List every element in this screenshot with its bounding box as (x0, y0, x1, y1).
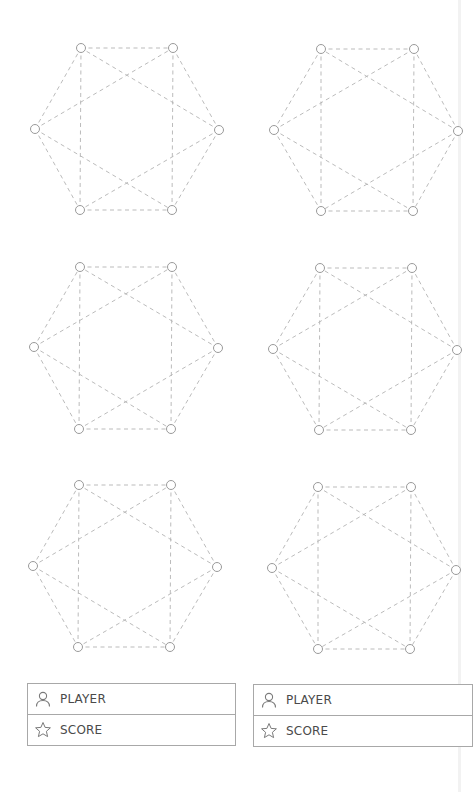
graph-edge (79, 485, 217, 567)
graph-edge (172, 267, 218, 348)
graph-edge (318, 487, 456, 570)
star-icon (34, 721, 52, 739)
graph-node[interactable] (314, 645, 323, 654)
graph-node[interactable] (166, 643, 175, 652)
graph-edge (274, 49, 321, 130)
graph-edge (80, 267, 218, 348)
graph-node[interactable] (268, 564, 277, 573)
graph-edge (273, 268, 320, 349)
player-label: PLAYER (60, 692, 106, 706)
graph-edge (272, 487, 411, 568)
graph-node[interactable] (169, 44, 178, 53)
graph-node[interactable] (316, 264, 325, 273)
graph-edge (274, 130, 413, 211)
graph-node[interactable] (270, 126, 279, 135)
graph-node[interactable] (410, 45, 419, 54)
graph-edge (171, 267, 172, 429)
graph-node[interactable] (77, 44, 86, 53)
score-label: SCORE (286, 724, 328, 738)
graph-node[interactable] (213, 563, 222, 572)
graph-edge (318, 570, 456, 649)
graph-node[interactable] (452, 566, 461, 575)
graph-edge (273, 349, 411, 430)
graph-edge (274, 130, 321, 211)
graph-node[interactable] (75, 481, 84, 490)
graph-edge (33, 485, 79, 566)
graph-edge (170, 485, 171, 647)
graph-edge (35, 129, 172, 210)
graph-node[interactable] (317, 207, 326, 216)
game-boards (0, 0, 461, 670)
graph-edge (172, 130, 219, 210)
graph-node[interactable] (314, 483, 323, 492)
score-row[interactable]: SCORE (254, 715, 472, 746)
star-icon (260, 722, 278, 740)
graph-board-1 (31, 44, 224, 215)
graph-node[interactable] (168, 206, 177, 215)
graph-node[interactable] (31, 125, 40, 134)
graph-edge (414, 49, 458, 131)
graph-edge (35, 129, 80, 210)
graph-edge (35, 48, 173, 129)
graph-edge (411, 268, 412, 430)
graph-edge (34, 347, 79, 429)
graph-node[interactable] (315, 426, 324, 435)
graph-edge (34, 267, 172, 347)
graph-edge (171, 485, 217, 567)
graph-edge (171, 348, 218, 429)
score-row[interactable]: SCORE (28, 714, 235, 745)
graph-node[interactable] (76, 263, 85, 272)
player-card-1: PLAYER SCORE (27, 683, 236, 746)
graph-edge (81, 48, 219, 130)
graph-edge (34, 347, 171, 429)
graph-edge (172, 48, 173, 210)
graph-node[interactable] (269, 345, 278, 354)
graph-node[interactable] (29, 562, 38, 571)
graph-board-2 (270, 45, 463, 216)
graph-edge (173, 48, 219, 130)
graph-edge (321, 49, 458, 131)
graph-board-3 (30, 263, 223, 434)
graph-node[interactable] (76, 206, 85, 215)
graph-node[interactable] (75, 425, 84, 434)
player-row[interactable]: PLAYER (28, 684, 235, 714)
graph-edge (410, 570, 456, 649)
graph-edge (412, 268, 457, 350)
graph-node[interactable] (406, 645, 415, 654)
graph-edge (170, 567, 217, 647)
graph-node[interactable] (214, 344, 223, 353)
graph-node[interactable] (407, 426, 416, 435)
graph-board-5 (29, 481, 222, 652)
graph-edge (79, 267, 80, 429)
graph-node[interactable] (407, 483, 416, 492)
graph-edge (78, 485, 79, 647)
graph-edge (410, 487, 411, 649)
graph-node[interactable] (454, 127, 463, 136)
graph-node[interactable] (408, 264, 417, 273)
score-label: SCORE (60, 723, 102, 737)
graph-edge (321, 131, 458, 211)
graph-node[interactable] (74, 643, 83, 652)
graph-node[interactable] (453, 346, 462, 355)
graph-node[interactable] (167, 481, 176, 490)
graph-node[interactable] (317, 45, 326, 54)
person-icon (260, 691, 278, 709)
graph-edge (35, 48, 81, 129)
player-row[interactable]: PLAYER (254, 685, 472, 715)
graph-node[interactable] (168, 263, 177, 272)
graph-board-6 (268, 483, 461, 654)
graph-edge (34, 267, 80, 347)
graph-edge (274, 49, 414, 130)
graph-node[interactable] (215, 126, 224, 135)
graph-edge (319, 268, 320, 430)
graph-edge (273, 268, 412, 349)
graph-node[interactable] (30, 343, 39, 352)
graph-edge (78, 567, 217, 647)
graph-node[interactable] (409, 207, 418, 216)
graph-edge (272, 568, 318, 649)
graph-edge (411, 487, 456, 570)
graph-node[interactable] (167, 425, 176, 434)
graph-edge (413, 49, 414, 211)
graph-board-4 (269, 264, 462, 435)
